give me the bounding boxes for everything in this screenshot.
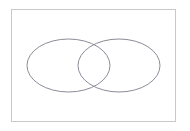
figure-frame [12, 10, 176, 122]
figure-root: — —— — —— — ——— — [0, 0, 190, 131]
venn-diagram [0, 0, 190, 131]
